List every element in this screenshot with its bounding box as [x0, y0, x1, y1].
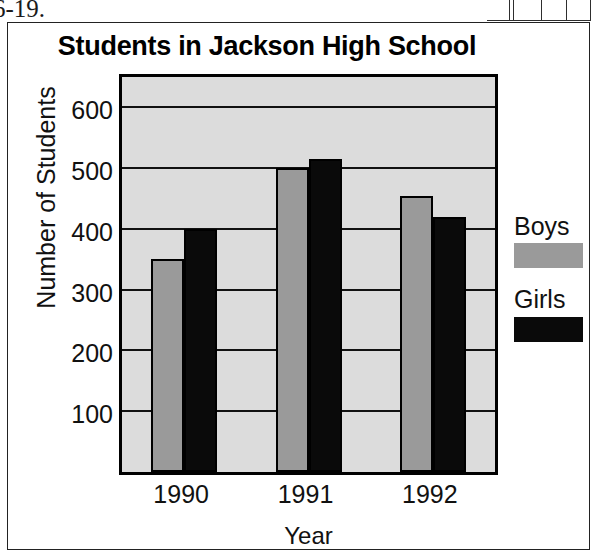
y-axis-tick-label: 500: [35, 157, 113, 186]
bar-boys-1990: [151, 259, 184, 472]
bar-girls-1990: [184, 229, 217, 472]
legend-label-boys: Boys: [514, 213, 592, 239]
bar-girls-1992: [433, 217, 466, 472]
table-fragment-vertical-rule: [509, 0, 510, 21]
x-axis-tick-label-1992: 1992: [370, 480, 490, 509]
x-axis-tick-label-1991: 1991: [246, 480, 366, 509]
legend-entry-boys: Boys: [514, 213, 592, 268]
legend-swatch-girls: [514, 317, 583, 342]
table-fragment-horizontal-rule: [487, 20, 591, 21]
gridline: [122, 106, 495, 108]
y-axis-tick-label: 600: [35, 96, 113, 125]
y-axis-tick-label: 200: [35, 339, 113, 368]
y-axis-tick-label: 300: [35, 278, 113, 307]
legend-swatch-boys: [514, 243, 583, 268]
legend-label-girls: Girls: [514, 286, 592, 312]
chart-title: Students in Jackson High School: [32, 31, 502, 62]
y-axis-tick-label: 400: [35, 217, 113, 246]
bar-boys-1992: [400, 196, 433, 473]
legend-entry-girls: Girls: [514, 286, 592, 341]
bar-boys-1991: [276, 168, 309, 472]
plot-area: 100200300400500600: [119, 74, 498, 475]
table-fragment-vertical-rule: [541, 0, 542, 21]
scan-artifacts: 6-19.: [0, 0, 595, 24]
y-axis-tick-label: 100: [35, 400, 113, 429]
table-fragment-vertical-rule: [566, 0, 567, 21]
figure-frame: Students in Jackson High School Number o…: [7, 22, 590, 550]
chart-legend: BoysGirls: [514, 213, 592, 360]
table-fragment-vertical-rule: [513, 0, 514, 21]
x-axis-tick-label-1990: 1990: [121, 480, 241, 509]
bar-girls-1991: [309, 159, 342, 472]
exercise-number: 6-19.: [0, 0, 45, 23]
plot-inner: [122, 77, 495, 472]
y-axis-tick-labels: 100200300400500600: [34, 77, 122, 478]
table-fragment-vertical-rule: [590, 0, 591, 21]
x-axis-title: Year: [119, 522, 498, 550]
